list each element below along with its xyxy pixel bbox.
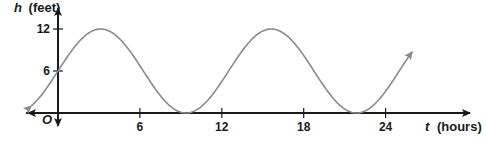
tide-chart: 6121824 612 O h (feet) t (hours) <box>0 0 486 142</box>
sine-curve <box>31 29 412 113</box>
y-axis-label: h (feet) <box>14 0 60 15</box>
x-tick-label: 24 <box>379 120 393 134</box>
x-tick-label: 18 <box>297 120 311 134</box>
x-tick-label: 12 <box>215 120 229 134</box>
y-tick-label: 6 <box>43 64 50 78</box>
x-ticks: 6121824 <box>137 108 393 134</box>
x-axis-label: t (hours) <box>425 119 482 134</box>
origin-label: O <box>42 112 52 127</box>
x-tick-label: 6 <box>137 120 144 134</box>
y-tick-label: 12 <box>37 22 51 36</box>
